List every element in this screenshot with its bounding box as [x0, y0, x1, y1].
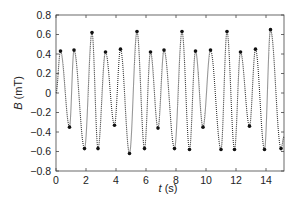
x-tick-label: 10 [200, 174, 212, 186]
extremum-marker [269, 28, 273, 32]
x-tick-label: 2 [83, 174, 89, 186]
extremum-marker [279, 147, 283, 151]
extremum-marker [96, 147, 100, 151]
extremum-marker [180, 30, 184, 34]
extremum-marker [83, 147, 87, 151]
y-tick-label: −0.4 [30, 126, 51, 138]
y-tick-label: 0.4 [36, 48, 51, 60]
extremum-marker [128, 152, 132, 156]
y-tick-label: 0 [45, 87, 51, 99]
plot-frame [56, 15, 284, 171]
extremum-marker [113, 123, 117, 127]
extremum-marker [149, 50, 153, 54]
x-axis-ticks: 02468101214 [53, 15, 272, 186]
y-tick-label: 0.2 [36, 67, 51, 79]
extremum-marker [188, 148, 192, 152]
extremum-marker [104, 50, 108, 54]
y-tick-label: 0.8 [36, 9, 51, 21]
y-tick-label: −0.8 [30, 165, 51, 177]
extremum-marker [119, 47, 123, 51]
extremum-marker [201, 125, 205, 129]
y-tick-label: −0.2 [30, 106, 51, 118]
extremum-marker [248, 124, 252, 128]
chart: 02468101214 0.80.60.40.20−0.2−0.4−0.6−0.… [0, 0, 300, 207]
x-tick-label: 4 [113, 174, 119, 186]
x-tick-label: 14 [260, 174, 272, 186]
extremum-marker [225, 30, 229, 34]
extremum-marker [135, 30, 139, 34]
extremum-marker [72, 48, 76, 52]
y-axis-ticks: 0.80.60.40.20−0.2−0.4−0.6−0.8 [30, 9, 284, 177]
extremum-marker [239, 50, 243, 54]
x-axis-label: t (s) [159, 182, 178, 194]
data-series-curve [56, 28, 284, 155]
extremum-marker [156, 126, 160, 130]
extremum-marker [254, 47, 258, 51]
y-tick-label: −0.6 [30, 145, 51, 157]
y-tick-label: 0.6 [36, 28, 51, 40]
y-axis-label: B (mT) [12, 76, 24, 110]
extremum-marker [173, 147, 177, 151]
extremum-marker [90, 31, 94, 35]
extremum-marker [194, 49, 198, 53]
extremum-marker [209, 48, 213, 52]
extremum-marker [162, 48, 166, 52]
x-tick-label: 0 [53, 174, 59, 186]
extremum-marker [263, 148, 267, 152]
x-tick-label: 6 [143, 174, 149, 186]
extremum-marker [59, 49, 63, 53]
extremum-marker [219, 148, 223, 152]
extremum-marker [143, 147, 147, 151]
extremum-marker [233, 148, 237, 152]
x-tick-label: 12 [230, 174, 242, 186]
extremum-marker [68, 125, 72, 129]
